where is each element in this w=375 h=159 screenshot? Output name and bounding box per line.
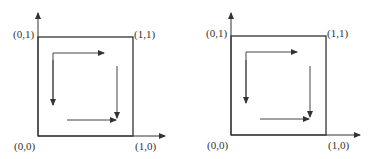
label-origin: (0,0) — [207, 139, 228, 152]
unit-square — [38, 37, 133, 136]
right-panel: (0,1) (1,1) (0,0) (1,0) — [206, 13, 360, 152]
arrow-top-left — [53, 53, 104, 105]
label-bottom-right: (1,0) — [328, 139, 349, 152]
arrow-top-left — [246, 52, 297, 103]
diagram-canvas: (0,1) (1,1) (0,0) (1,0) (0,1) (1,1) (0,0… — [0, 0, 375, 159]
left-panel: (0,1) (1,1) (0,0) (1,0) — [13, 13, 165, 153]
label-top-right: (1,1) — [134, 28, 155, 41]
flow-arrows — [246, 52, 310, 119]
label-top-right: (1,1) — [327, 27, 348, 40]
label-bottom-right: (1,0) — [135, 140, 156, 153]
label-top-left: (0,1) — [13, 28, 34, 41]
label-origin: (0,0) — [14, 140, 35, 153]
flow-arrows — [53, 53, 117, 120]
label-top-left: (0,1) — [206, 27, 227, 40]
unit-square — [231, 36, 326, 135]
